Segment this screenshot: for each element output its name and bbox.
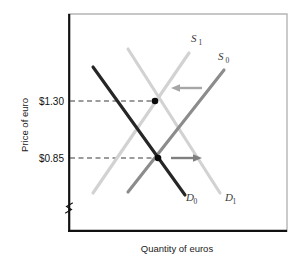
x-axis-title: Quantity of euros: [141, 243, 214, 254]
plot-area-background: [68, 14, 287, 232]
svg-text:S: S: [191, 32, 197, 44]
chart-canvas: $1.30 $0.85 S 1 S 0 D 0 D 1 Quantity of …: [0, 0, 304, 266]
y-tick-label-130: $1.30: [39, 96, 64, 107]
svg-text:S: S: [218, 50, 224, 62]
svg-text:1: 1: [199, 38, 203, 47]
equilibrium-point-initial: [155, 155, 162, 162]
economics-supply-demand-figure: $1.30 $0.85 S 1 S 0 D 0 D 1 Quantity of …: [0, 0, 304, 266]
svg-text:1: 1: [233, 197, 237, 206]
y-axis-title: Price of euro: [19, 98, 30, 152]
y-tick-label-085: $0.85: [39, 153, 64, 164]
svg-text:0: 0: [226, 56, 230, 65]
svg-text:0: 0: [194, 197, 198, 206]
equilibrium-point-new: [152, 98, 159, 105]
